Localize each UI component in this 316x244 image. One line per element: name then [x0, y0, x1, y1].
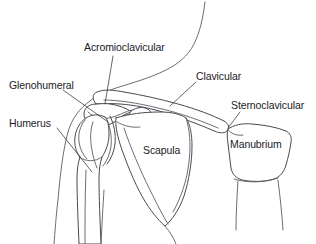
leader-clavicular [170, 82, 196, 106]
scapula-outline [116, 112, 192, 226]
humerus-bone [75, 115, 109, 244]
shoulder-anatomy-diagram: Acromioclavicular Glenohumeral Humerus C… [0, 0, 316, 244]
label-manubrium: Manubrium [230, 138, 282, 150]
label-acromioclavicular: Acromioclavicular [84, 41, 165, 53]
scapula-inferior-angle [165, 226, 176, 244]
label-humerus: Humerus [9, 117, 51, 129]
label-clavicular: Clavicular [196, 70, 241, 82]
medial-arm-contour [101, 190, 104, 244]
label-glenohumeral: Glenohumeral [9, 79, 74, 91]
label-scapula: Scapula [143, 144, 180, 156]
label-sternoclavicular: Sternoclavicular [231, 99, 304, 111]
scapula-bone [116, 112, 192, 244]
humerus-outline [75, 115, 109, 244]
manubrium-outline [227, 124, 291, 182]
sternum-body-outline [236, 180, 283, 230]
